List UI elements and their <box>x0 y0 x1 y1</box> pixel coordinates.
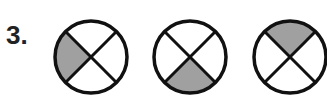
circle-3 <box>254 21 326 93</box>
circle-2 <box>154 21 226 93</box>
circle-1 <box>55 21 127 93</box>
quadrant-circles-diagram <box>0 0 327 101</box>
